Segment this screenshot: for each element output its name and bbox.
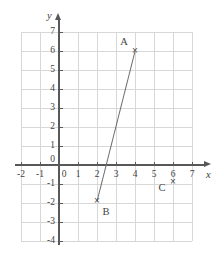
y-tick-label: 0 [43,155,55,165]
gridline-vertical [173,32,174,241]
y-axis-tick [59,203,63,204]
gridline-vertical [40,32,41,241]
y-tick-label: -1 [43,179,55,189]
gridline-vertical [154,32,155,241]
y-axis-tick [59,127,63,128]
x-axis-tick [21,162,22,166]
y-axis-tick [59,108,63,109]
x-tick-label: 2 [95,170,100,180]
x-axis-label: x [206,170,211,181]
gridline-vertical [97,32,98,241]
y-tick-label: 4 [43,84,55,94]
y-axis [58,20,60,245]
x-axis-tick [97,162,98,166]
x-tick-label: -2 [17,170,25,180]
gridline-vertical [78,32,79,241]
y-tick-label: -2 [43,198,55,208]
y-tick-label: 3 [43,103,55,113]
y-axis-tick [59,222,63,223]
y-axis-tick [59,184,63,185]
y-tick-label: -3 [43,217,55,227]
point-marker-b: × [94,196,100,206]
y-axis-tick [59,146,63,147]
y-tick-label: 7 [43,27,55,37]
x-tick-label: 7 [190,170,195,180]
x-tick-label: 0 [62,170,67,180]
x-axis-tick [116,162,117,166]
point-marker-c: × [170,177,176,187]
y-axis-tick [59,241,63,242]
gridline-vertical [135,32,136,241]
y-tick-label: 1 [43,141,55,151]
x-tick-label: -1 [36,170,44,180]
coordinate-plane-figure: yx-2-101234567-4-3-2-101234567×A×B×C [0,0,222,258]
y-axis-tick [59,51,63,52]
x-tick-label: 3 [114,170,119,180]
y-axis-tick [59,70,63,71]
x-tick-label: 1 [76,170,81,180]
y-tick-label: -4 [43,236,55,246]
y-tick-label: 6 [43,46,55,56]
gridline-vertical [116,32,117,241]
point-label-c: C [158,183,165,194]
x-axis-tick [78,162,79,166]
gridline-vertical [21,32,22,241]
x-tick-label: 4 [133,170,138,180]
point-label-b: B [102,207,109,218]
x-axis-tick [173,162,174,166]
x-axis-arrow [204,161,211,167]
y-axis-tick [59,89,63,90]
x-axis-tick [192,162,193,166]
x-axis-tick [135,162,136,166]
y-tick-label: 2 [43,122,55,132]
gridline-vertical [192,32,193,241]
y-axis-tick [59,32,63,33]
point-label-a: A [120,37,128,48]
x-tick-label: 5 [152,170,157,180]
y-tick-label: 5 [43,65,55,75]
x-axis-tick [154,162,155,166]
x-axis-tick [40,162,41,166]
y-axis-arrow [55,13,61,20]
y-axis-label: y [47,11,52,22]
point-marker-a: × [132,46,138,56]
